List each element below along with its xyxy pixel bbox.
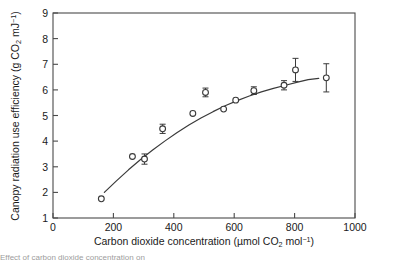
data-point-marker (281, 82, 287, 88)
y-tick-label: 2 (42, 186, 48, 198)
y-tick-label: 7 (42, 58, 48, 70)
y-tick-label: 4 (42, 135, 48, 147)
data-points-layer (98, 58, 329, 201)
data-point-marker (130, 154, 136, 160)
data-point-marker (98, 196, 104, 202)
y-tick-label: 9 (42, 7, 48, 19)
data-point-marker (190, 111, 196, 117)
x-tick-label: 400 (165, 221, 183, 233)
data-point-marker (293, 67, 299, 73)
y-tick-label: 3 (42, 161, 48, 173)
figure-caption: Effect of carbon dioxide concentration o… (0, 253, 393, 260)
x-axis-title: Carbon dioxide concentration (µmol CO2 m… (94, 235, 314, 250)
data-point-marker (221, 106, 227, 112)
y-tick-label: 5 (42, 110, 48, 122)
data-point-marker (142, 156, 148, 162)
x-axis-tick-labels: 0 200 400 600 800 1000 (50, 221, 367, 233)
y-axis-tick-labels: 9 8 7 6 5 4 3 2 1 (42, 7, 48, 224)
plot-frame (53, 13, 355, 218)
fit-curve (104, 78, 318, 192)
x-tick-label: 0 (50, 221, 56, 233)
data-point-marker (160, 126, 166, 132)
y-tick-label: 8 (42, 33, 48, 45)
data-point-marker (203, 90, 209, 96)
x-axis-ticks (53, 213, 355, 218)
figure-container: 9 8 7 6 5 4 3 2 1 0 200 400 600 800 1000 (0, 0, 393, 260)
data-point-marker (251, 88, 257, 94)
x-tick-label: 1000 (343, 221, 367, 233)
data-point-marker (233, 97, 239, 103)
y-axis-title: Canopy radiation use efficiency (g CO2 m… (9, 11, 24, 220)
y-axis-ticks (53, 13, 58, 218)
data-point-marker (323, 75, 329, 81)
y-tick-label: 6 (42, 84, 48, 96)
x-tick-label: 200 (105, 221, 123, 233)
x-tick-label: 800 (286, 221, 304, 233)
chart-canvas: 9 8 7 6 5 4 3 2 1 0 200 400 600 800 1000 (0, 0, 393, 260)
y-tick-label: 1 (42, 212, 48, 224)
x-tick-label: 600 (225, 221, 243, 233)
